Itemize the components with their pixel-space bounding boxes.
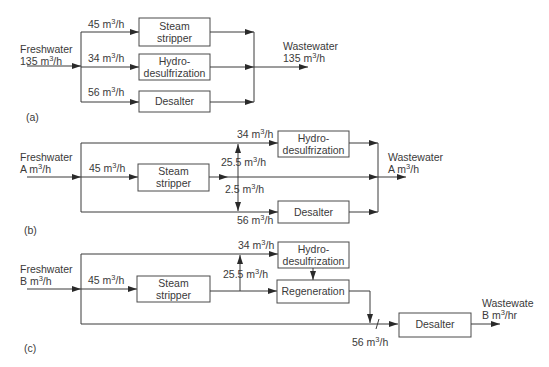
hydro-label: Hydro-: [159, 55, 191, 67]
flow-label-desalter: 56 m3/h: [88, 85, 124, 98]
reuse-down-flow-label: 2.5 m3/h: [225, 182, 264, 195]
flow-label-hydro: 34 m3/h: [238, 238, 274, 251]
wastewater-flow: 135 m3/h: [283, 51, 325, 64]
flow-label-steam-stripper: 45 m3/h: [88, 17, 124, 30]
flow-label-hydro: 34 m3/h: [237, 127, 273, 140]
diagram-a-label: (a): [26, 111, 39, 123]
diagram-a: Freshwater 135 m3/h 45 m3/h Steam stripp…: [20, 17, 339, 123]
hydro-label-2: desulfrization: [144, 67, 206, 79]
diagram-c: Freshwater B m3/h 34 m3/h Hydro- desulfr…: [20, 238, 534, 354]
desalter-label: Desalter: [294, 206, 334, 218]
freshwater-flow: A m3/h: [20, 162, 51, 175]
steam-stripper-label-2: stripper: [157, 32, 193, 44]
freshwater-flow: 135 m3/h: [20, 54, 62, 67]
regeneration-label: Regeneration: [281, 285, 344, 297]
steam-stripper-label-2: stripper: [156, 177, 192, 189]
freshwater-flow: B m3/h: [20, 274, 52, 287]
steam-stripper-label: Steam: [158, 277, 189, 289]
steam-stripper-label-2: stripper: [156, 289, 192, 301]
flow-label-steam-stripper: 45 m3/h: [89, 161, 125, 174]
freshwater-label: Freshwater: [20, 263, 73, 275]
regeneration-to-desalter-arrow: [349, 291, 370, 323]
reuse-up-flow-label: 25.5 m3/h: [223, 267, 268, 280]
steam-stripper-label: Steam: [158, 165, 189, 177]
diagram-c-label: (c): [24, 342, 36, 354]
steam-stripper-label: Steam: [159, 20, 190, 32]
desalter-label: Desalter: [415, 318, 455, 330]
water-network-diagrams: Freshwater 135 m3/h 45 m3/h Steam stripp…: [0, 0, 549, 367]
flow-label-hydro: 34 m3/h: [88, 51, 124, 64]
wastewater-label: Wastewater: [283, 40, 339, 52]
wastewater-label: Wastewater: [388, 151, 444, 163]
freshwater-label: Freshwater: [20, 43, 73, 55]
wastewater-flow: A m3/h: [388, 162, 419, 175]
wastewater-flow: B m3/hr: [482, 308, 518, 321]
diagram-b-label: (b): [24, 224, 37, 236]
hydro-label-2: desulfrization: [283, 255, 345, 267]
hydro-label: Hydro-: [298, 243, 330, 255]
flow-label-desalter: 56 m3/h: [237, 213, 273, 226]
diagram-b: Freshwater A m3/h 34 m3/h Hydro- desulfr…: [20, 127, 444, 236]
desalter-label: Desalter: [155, 95, 195, 107]
wastewater-label: Wastewate: [482, 297, 534, 309]
flow-label-desalter: 56 m3/h: [352, 335, 388, 348]
hydro-label: Hydro-: [298, 132, 330, 144]
flow-label-steam-stripper: 45 m3/h: [88, 273, 124, 286]
reuse-up-flow-label: 25.5 m3/h: [221, 155, 266, 168]
hydro-label-2: desulfrization: [283, 144, 345, 156]
freshwater-label: Freshwater: [20, 151, 73, 163]
